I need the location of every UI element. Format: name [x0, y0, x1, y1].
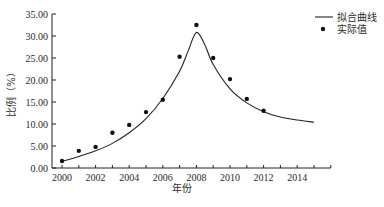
data-point: [110, 131, 114, 135]
data-point: [60, 159, 64, 163]
y-tick-label: 35.00: [26, 9, 49, 20]
y-tick-label: 25.00: [26, 53, 49, 64]
x-tick-label: 2014: [287, 172, 307, 183]
fit-curve-line: [62, 32, 314, 161]
y-tick-label: 5.00: [31, 141, 49, 152]
x-tick-label: 2006: [153, 172, 173, 183]
x-tick-label: 2000: [52, 172, 72, 183]
data-point: [245, 97, 249, 101]
x-tick-label: 2002: [86, 172, 106, 183]
y-tick-label: 20.00: [26, 75, 49, 86]
legend: 拟合曲线 实际值: [315, 11, 377, 35]
legend-fit-label: 拟合曲线: [337, 11, 377, 23]
x-tick-label: 2008: [186, 172, 206, 183]
legend-actual-label: 实际值: [337, 23, 367, 35]
y-tick-label: 30.00: [26, 31, 49, 42]
data-point: [161, 98, 165, 102]
x-tick-label: 2012: [254, 172, 274, 183]
legend-dot-icon: [321, 27, 325, 31]
x-tick-label: 2004: [119, 172, 139, 183]
data-point: [194, 23, 198, 27]
data-point: [77, 149, 81, 153]
y-tick-label: 10.00: [26, 119, 49, 130]
chart: 0.005.0010.0015.0020.0025.0030.0035.00 2…: [0, 0, 384, 207]
y-tick-label: 0.00: [31, 163, 49, 174]
x-tick-label: 2010: [220, 172, 240, 183]
data-point: [93, 145, 97, 149]
y-axis: 0.005.0010.0015.0020.0025.0030.0035.00: [26, 9, 57, 174]
y-tick-label: 15.00: [26, 97, 49, 108]
data-point: [261, 109, 265, 113]
x-axis-title: 年份: [172, 182, 192, 194]
data-point: [177, 54, 181, 58]
data-point: [127, 123, 131, 127]
x-axis: 20002002200420062008201020122014: [52, 165, 331, 183]
data-point: [211, 56, 215, 60]
data-point: [144, 110, 148, 114]
y-axis-title: 比例（%）: [5, 67, 17, 117]
data-point: [228, 77, 232, 81]
